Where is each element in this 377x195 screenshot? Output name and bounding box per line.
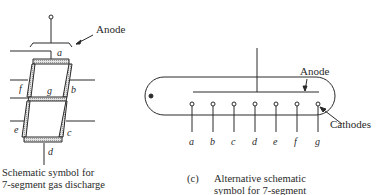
segment-f xyxy=(27,64,35,97)
diagram-canvas: Anode a b c d e f g abcdefg Anode Cathod… xyxy=(0,0,377,195)
cathode-pin-d xyxy=(253,102,257,106)
cathode-pins: abcdefg xyxy=(189,102,320,147)
anode-arrowhead-right xyxy=(303,86,307,91)
cathode-label-g: g xyxy=(315,136,320,147)
cathode-label-b: b xyxy=(210,136,215,147)
cathode-pin-b xyxy=(211,102,215,106)
caption-right-line1: Alternative schematic xyxy=(214,173,306,185)
cathode-pin-e xyxy=(274,102,278,106)
pin1-dot xyxy=(149,94,153,98)
segment-a xyxy=(33,59,69,64)
anode-bracket xyxy=(30,43,72,47)
cathode-label-d: d xyxy=(252,136,258,147)
cathode-pin-c xyxy=(232,102,236,106)
segment-label-c: c xyxy=(67,127,72,138)
cathode-pin-a xyxy=(190,102,194,106)
segment-label-e: e xyxy=(14,124,19,135)
segment-g xyxy=(28,97,67,101)
alternative-symbol xyxy=(145,48,342,124)
segment-d xyxy=(24,137,62,142)
segment-label-b: b xyxy=(71,84,76,95)
caption-left-line1: Schematic symbol for xyxy=(2,167,105,179)
anode-terminal xyxy=(49,15,53,19)
segment-label-d: d xyxy=(48,146,54,157)
segment-label-g: g xyxy=(47,85,52,96)
segment-label-f: f xyxy=(19,83,23,94)
cathode-pin-f xyxy=(295,102,299,106)
cathode-label-e: e xyxy=(273,136,278,147)
cathode-label-c: c xyxy=(231,136,236,147)
segment-e xyxy=(22,101,30,137)
caption-left: Schematic symbol for 7-segment gas disch… xyxy=(2,167,105,191)
cathodes-label: Cathodes xyxy=(330,118,371,130)
seven-segment-symbol xyxy=(10,15,95,165)
anode-label-right: Anode xyxy=(300,65,329,77)
caption-tag: (c) xyxy=(187,173,199,185)
anode-arrowhead xyxy=(76,40,81,44)
cathode-label-f: f xyxy=(294,136,298,147)
cathode-pin-g xyxy=(316,102,320,106)
caption-right-line2: symbol for 7-segment xyxy=(214,185,306,195)
segment-c xyxy=(59,101,67,137)
segment-label-a: a xyxy=(57,47,62,58)
cathode-label-a: a xyxy=(189,136,194,147)
caption-left-line2: 7-segment gas discharge xyxy=(2,179,105,191)
anode-label-left: Anode xyxy=(96,23,125,35)
